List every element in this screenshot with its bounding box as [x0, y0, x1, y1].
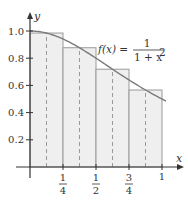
x-tick-label: 1 [159, 171, 165, 182]
x-tick-numerator: 1 [60, 172, 66, 183]
x-tick-denominator: 4 [126, 185, 132, 196]
function-lhs: f(x) = [97, 43, 128, 55]
y-tick-label: 1.0 [8, 26, 24, 37]
y-ticks-group: 0.20.40.60.81.0 [8, 26, 33, 146]
y-axis-label: y [33, 10, 41, 23]
y-tick-label: 0.2 [8, 134, 24, 145]
x-ticks-group: 1412341 [59, 164, 165, 196]
function-exponent: 2 [159, 46, 166, 58]
y-tick-label: 0.4 [8, 107, 24, 118]
function-denominator-text: 1 + x [134, 51, 162, 63]
x-tick-numerator: 3 [126, 172, 132, 183]
function-label: f(x) = 1 1 + x 2 [97, 37, 166, 63]
y-axis-arrow [27, 12, 33, 19]
function-denominator: 1 + x [134, 51, 162, 63]
function-numerator: 1 [144, 37, 151, 49]
x-tick-numerator: 1 [93, 172, 99, 183]
midpoint-rule-chart: x y 0.20.40.60.81.0 1412341 f(x) = 1 1 +… [0, 0, 188, 201]
x-tick-denominator: 4 [60, 185, 66, 196]
y-tick-label: 0.8 [8, 53, 24, 64]
x-tick-denominator: 2 [93, 185, 99, 196]
y-tick-label: 0.6 [8, 80, 24, 91]
x-axis-label: x [176, 152, 183, 165]
